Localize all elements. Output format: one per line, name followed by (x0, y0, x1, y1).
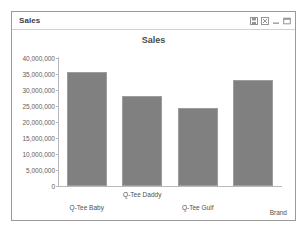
y-axis-tick-label: 0 (51, 183, 55, 190)
chart-window: Sales (11, 11, 296, 221)
y-axis-tick-mark (56, 170, 59, 171)
y-axis-tick-label: 35,000,000 (22, 71, 55, 78)
bar-q-tee-daddy[interactable] (122, 96, 162, 186)
maximize-icon[interactable] (283, 17, 291, 25)
y-axis-tick-label: 20,000,000 (22, 119, 55, 126)
bar-q-tee-gulf[interactable] (178, 108, 218, 186)
y-axis-tick-mark (56, 154, 59, 155)
bar-brand[interactable] (233, 80, 273, 186)
x-axis-category-label: Q-Tee Baby (70, 204, 104, 211)
window-controls (250, 17, 291, 25)
y-axis-tick-label: 15,000,000 (22, 135, 55, 142)
y-axis-tick-label: 25,000,000 (22, 103, 55, 110)
y-axis-tick-mark (56, 106, 59, 107)
y-axis-tick-mark (56, 122, 59, 123)
window-title-bar: Sales (12, 12, 295, 30)
y-axis-tick-mark (56, 138, 59, 139)
y-axis-tick-label: 10,000,000 (22, 151, 55, 158)
bar-q-tee-baby[interactable] (67, 72, 107, 186)
x-axis-category-label: Q-Tee Gulf (182, 204, 213, 211)
chart-title: Sales (12, 35, 295, 45)
window-title: Sales (19, 16, 250, 25)
x-axis-line (58, 186, 282, 187)
y-axis-tick-mark (56, 74, 59, 75)
plot-area: 05,000,00010,000,00015,000,00020,000,000… (59, 58, 281, 186)
y-axis-tick-label: 30,000,000 (22, 87, 55, 94)
save-icon[interactable] (250, 17, 258, 25)
x-axis-title: Brand (270, 209, 287, 216)
y-axis-tick-label: 40,000,000 (22, 55, 55, 62)
chart-panel: Sales 05,000,00010,000,00015,000,00020,0… (12, 30, 295, 220)
y-axis-tick-mark (56, 58, 59, 59)
minimize-icon[interactable] (272, 17, 280, 25)
excel-icon[interactable] (261, 17, 269, 25)
x-axis-category-label: Q-Tee Daddy (123, 191, 161, 198)
y-axis-tick-mark (56, 90, 59, 91)
y-axis-tick-label: 5,000,000 (26, 167, 55, 174)
y-axis-tick-mark (56, 186, 59, 187)
